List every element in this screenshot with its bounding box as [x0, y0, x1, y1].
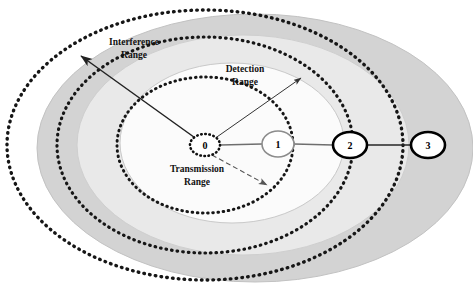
node-3[interactable]: 3	[411, 132, 445, 158]
node-0-label: 0	[203, 140, 208, 151]
node-2-label: 2	[348, 140, 353, 151]
node-0[interactable]: 0	[190, 134, 220, 156]
range-diagram: Interference Range Detection Range Trans…	[0, 0, 473, 283]
diagram-canvas: Interference Range Detection Range Trans…	[0, 0, 473, 283]
detection-range-label-line2: Range	[232, 77, 258, 87]
link-1-2	[294, 144, 333, 145]
interference-range-label-line2: Range	[121, 50, 147, 60]
interference-range-label-line1: Interference	[109, 37, 159, 47]
node-3-label: 3	[426, 140, 431, 151]
detection-range-label-line1: Detection	[226, 64, 265, 74]
link-0-1	[220, 144, 262, 145]
node-1[interactable]: 1	[262, 131, 294, 157]
transmission-range-label-line2: Range	[184, 177, 210, 187]
node-1-label: 1	[276, 139, 281, 150]
node-2[interactable]: 2	[333, 132, 367, 158]
transmission-range-label-line1: Transmission	[170, 164, 225, 174]
shaded-regions	[37, 14, 473, 282]
